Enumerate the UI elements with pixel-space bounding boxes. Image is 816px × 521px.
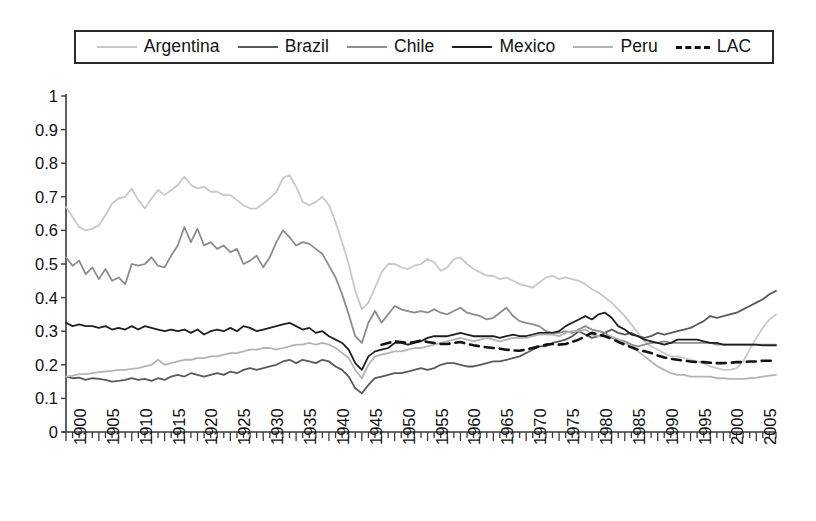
y-tick-label: 0.4 bbox=[18, 290, 58, 307]
y-tick-label: 1 bbox=[18, 88, 58, 105]
y-tick-label: 0.1 bbox=[18, 390, 58, 407]
x-tick-label: 1950 bbox=[401, 408, 418, 445]
y-tick-label: 0.6 bbox=[18, 222, 58, 239]
x-tick-label: 1900 bbox=[72, 408, 89, 445]
x-tick-label: 1990 bbox=[664, 408, 681, 445]
x-tick-label: 1920 bbox=[203, 408, 220, 445]
y-tick-label: 0.5 bbox=[18, 256, 58, 273]
x-tick-label: 1905 bbox=[105, 408, 122, 445]
series-line-chile bbox=[66, 227, 776, 346]
x-tick-label: 1930 bbox=[269, 408, 286, 445]
figure-container: ArgentinaBrazilChileMexicoPeruLAC 00.10.… bbox=[0, 0, 816, 521]
x-tick-label: 1965 bbox=[499, 408, 516, 445]
x-tick-label: 1970 bbox=[532, 408, 549, 445]
x-tick-label: 1935 bbox=[302, 408, 319, 445]
x-tick-label: 1985 bbox=[631, 408, 648, 445]
y-tick-label: 0 bbox=[18, 424, 58, 441]
x-tick-label: 1910 bbox=[138, 408, 155, 445]
x-tick-label: 1915 bbox=[171, 408, 188, 445]
x-tick-label: 1940 bbox=[335, 408, 352, 445]
y-tick-label: 0.9 bbox=[18, 122, 58, 139]
y-tick-label: 0.2 bbox=[18, 357, 58, 374]
y-tick-label: 0.8 bbox=[18, 155, 58, 172]
x-tick-label: 1945 bbox=[368, 408, 385, 445]
x-tick-label: 1955 bbox=[434, 408, 451, 445]
y-tick-label: 0.3 bbox=[18, 323, 58, 340]
x-tick-label: 2000 bbox=[729, 408, 746, 445]
x-tick-label: 1995 bbox=[697, 408, 714, 445]
x-tick-label: 2005 bbox=[762, 408, 779, 445]
x-tick-label: 1980 bbox=[598, 408, 615, 445]
y-tick-label: 0.7 bbox=[18, 189, 58, 206]
series-line-peru bbox=[66, 330, 776, 379]
series-line-lac bbox=[382, 333, 776, 363]
x-tick-label: 1960 bbox=[466, 408, 483, 445]
x-tick-label: 1975 bbox=[565, 408, 582, 445]
x-tick-label: 1925 bbox=[236, 408, 253, 445]
